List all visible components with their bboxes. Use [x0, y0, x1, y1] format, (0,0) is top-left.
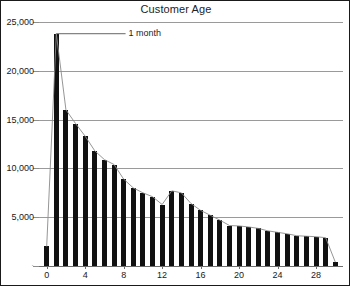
x-axis-tick-mark [201, 266, 202, 269]
plot-area [39, 22, 343, 266]
y-axis-tick-label: · [31, 261, 34, 271]
bar [237, 226, 242, 266]
bar [83, 136, 88, 266]
bar [73, 124, 78, 266]
bar [198, 210, 203, 266]
bar [179, 193, 184, 266]
bar [256, 228, 261, 266]
bar [265, 231, 270, 266]
bar-series [39, 22, 343, 266]
bar [246, 227, 251, 266]
bar [160, 205, 165, 266]
x-axis: 0481216202428 [39, 266, 343, 286]
bar [304, 236, 309, 266]
x-axis-tick-mark [278, 266, 279, 269]
bar [208, 215, 213, 266]
x-axis-tick-label: 28 [311, 270, 321, 281]
bar [323, 238, 328, 266]
x-axis-tick-label: 8 [121, 270, 126, 281]
bar [140, 193, 145, 266]
bar [275, 232, 280, 266]
bar [150, 197, 155, 266]
y-axis-tick-label: 25,000 [6, 17, 34, 27]
page-title: Customer Age [1, 3, 350, 16]
y-axis-tick-label: 20,000 [6, 66, 34, 76]
bar [285, 234, 290, 266]
x-axis-tick-label: 24 [273, 270, 283, 281]
bar [189, 204, 194, 266]
bar [227, 226, 232, 267]
bar [112, 165, 117, 267]
bar [102, 160, 107, 266]
x-axis-tick-mark [85, 266, 86, 269]
x-axis-tick-mark [47, 266, 48, 269]
y-axis-tick-label: 5,000 [11, 212, 34, 222]
x-axis-tick-label: 20 [234, 270, 244, 281]
bar [92, 151, 97, 266]
x-axis-tick-label: 16 [196, 270, 206, 281]
x-axis-tick-label: 4 [83, 270, 88, 281]
x-axis-tick-mark [162, 266, 163, 269]
y-axis-tick-label: 10,000 [6, 163, 34, 173]
x-axis-tick-label: 0 [44, 270, 49, 281]
annotation-label: 1 month [129, 28, 162, 39]
bar [121, 179, 126, 266]
x-axis-tick-mark [124, 266, 125, 269]
chart-figure: Customer Age ·5,00010,00015,00020,00025,… [0, 0, 350, 286]
y-axis-tick-label: 15,000 [6, 115, 34, 125]
bar [54, 34, 59, 266]
x-axis-tick-label: 12 [157, 270, 167, 281]
bar [294, 236, 299, 266]
bar [217, 220, 222, 266]
bar [131, 188, 136, 266]
x-axis-tick-mark [239, 266, 240, 269]
x-axis-tick-mark [316, 266, 317, 269]
bar [169, 191, 174, 266]
bar [44, 246, 49, 266]
bar [314, 237, 319, 266]
bar [63, 110, 68, 266]
